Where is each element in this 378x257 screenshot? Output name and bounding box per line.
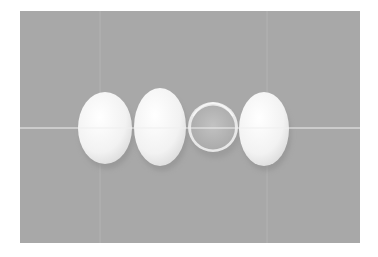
egg-photo xyxy=(0,0,378,257)
egg-3 xyxy=(239,92,289,166)
eggshell-half xyxy=(188,102,238,152)
egg-2 xyxy=(134,88,186,166)
